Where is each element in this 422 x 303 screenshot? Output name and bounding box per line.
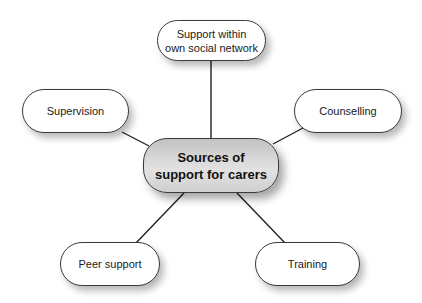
node-supervision-label: Supervision (47, 104, 104, 118)
node-center: Sources of support for carers (143, 138, 279, 193)
node-training-label: Training (288, 257, 327, 271)
connector-center-to-supervision (122, 132, 149, 146)
node-center-label: Sources of support for carers (155, 149, 267, 183)
node-training: Training (255, 242, 360, 286)
node-counselling: Counselling (294, 89, 402, 133)
node-social-network-label: Support within own social network (165, 27, 258, 55)
node-supervision: Supervision (22, 89, 129, 133)
node-peer-support: Peer support (60, 242, 160, 286)
node-counselling-label: Counselling (319, 104, 376, 118)
node-social-network: Support within own social network (157, 20, 266, 61)
connector-center-to-training (237, 193, 285, 243)
connector-center-to-peer-support (136, 193, 184, 243)
connector-center-to-counselling (273, 128, 303, 144)
node-peer-support-label: Peer support (79, 257, 142, 271)
